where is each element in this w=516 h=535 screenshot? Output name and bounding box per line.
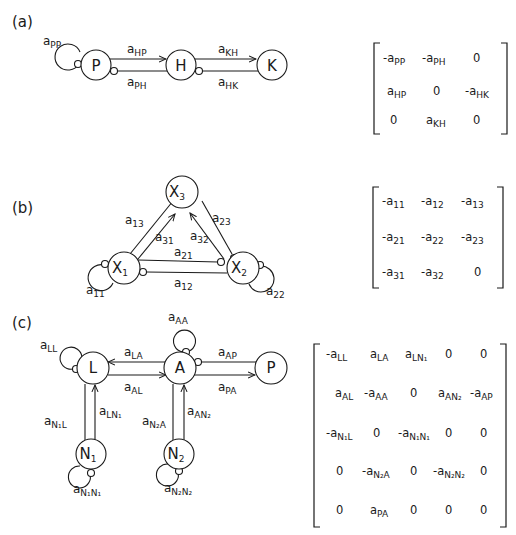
edge-label-ahk: aHK xyxy=(218,75,239,91)
negative-effect-marker xyxy=(140,269,147,276)
food-web-figure: (a) aPP aHP aPH aKH aHK P H K -aPP -aPH … xyxy=(0,0,516,535)
edge-x3-to-x2 xyxy=(202,201,232,254)
matrix-cell: -a13 xyxy=(461,194,484,210)
edge-label-aal: aAL xyxy=(124,380,143,396)
edge-label-aap: aAP xyxy=(218,345,238,361)
panel-b-label: (b) xyxy=(12,199,33,217)
matrix-cell: -aAP xyxy=(470,386,493,402)
community-matrix-c: -aLL aLA aLN₁ 0 0 aAL -aAA 0 aAN₂ -aAP -… xyxy=(314,344,506,527)
edge-label-ahp: aHP xyxy=(127,42,147,58)
matrix-cell: -aPP xyxy=(383,51,406,67)
matrix-right-bracket xyxy=(497,187,503,288)
node-k-label: K xyxy=(267,57,278,75)
edge-label-a11: a11 xyxy=(86,283,105,299)
node-a-label: A xyxy=(175,359,186,377)
matrix-cell: 0 xyxy=(410,386,417,400)
edge-label-all: aLL xyxy=(40,338,57,354)
matrix-cell: aLA xyxy=(370,347,389,363)
matrix-cell: -a22 xyxy=(421,230,444,246)
matrix-cell: 0 xyxy=(480,347,487,361)
matrix-cell: 0 xyxy=(433,84,440,98)
matrix-cell: 0 xyxy=(373,426,380,440)
negative-effect-marker xyxy=(88,470,95,477)
matrix-cell: 0 xyxy=(480,464,487,478)
edge-label-ala: aLA xyxy=(124,345,144,361)
edge-label-aan2: aAN₂ xyxy=(187,404,211,420)
edge-label-akh: aKH xyxy=(218,42,238,58)
negative-effect-marker xyxy=(102,261,109,268)
matrix-cell: aAN₂ xyxy=(438,386,462,402)
matrix-cell: 0 xyxy=(480,426,487,440)
matrix-cell: -aLL xyxy=(326,347,347,363)
matrix-cell: aHP xyxy=(387,84,407,100)
matrix-cell: 0 xyxy=(480,503,487,517)
node-p-label: P xyxy=(266,359,275,377)
matrix-cell: aAL xyxy=(335,386,353,402)
edge-label-aln1: aLN₁ xyxy=(99,404,122,420)
edge-label-an1l: aN₁L xyxy=(44,414,67,430)
matrix-cell: -aPH xyxy=(422,51,445,67)
node-h-label: H xyxy=(175,57,186,75)
matrix-cell: 0 xyxy=(474,265,481,279)
edge-label-a22: a22 xyxy=(266,284,285,300)
matrix-right-bracket xyxy=(500,344,506,527)
matrix-left-bracket xyxy=(374,43,380,134)
panel-c: (c) aLL aLA aAL aAA aAP aPA aN₁L aLN₁ aN… xyxy=(12,310,506,527)
matrix-cell: 0 xyxy=(473,113,480,127)
matrix-cell: 0 xyxy=(336,503,343,517)
matrix-cell: -aAA xyxy=(364,386,389,402)
edge-label-a13: a13 xyxy=(125,213,144,229)
node-l-label: L xyxy=(89,359,98,377)
matrix-right-bracket xyxy=(501,43,507,134)
matrix-cell: 0 xyxy=(445,426,452,440)
community-matrix-b: -a11 -a12 -a13 -a21 -a22 -a23 -a31 -a32 … xyxy=(373,187,503,288)
edge-label-an2a: aN₂A xyxy=(142,414,167,430)
edge-label-aaa: aAA xyxy=(168,310,189,326)
matrix-cell: -aHK xyxy=(465,84,490,100)
node-p-label: P xyxy=(91,57,100,75)
edge-label-app: aPP xyxy=(43,34,62,50)
panel-b: (b) a13 a31 a23 a32 a21 a12 a11 a22 X3 X… xyxy=(12,176,503,300)
matrix-cell: -a11 xyxy=(382,194,405,210)
matrix-cell: 0 xyxy=(336,464,343,478)
matrix-cell: -aN₂A xyxy=(362,464,391,480)
negative-effect-marker xyxy=(75,61,82,68)
matrix-cell: 0 xyxy=(410,503,417,517)
matrix-cell: -aN₁N₁ xyxy=(398,426,430,442)
matrix-cell: 0 xyxy=(445,503,452,517)
panel-a-label: (a) xyxy=(12,13,33,31)
edge-label-a12: a12 xyxy=(174,276,193,292)
negative-effect-marker xyxy=(111,68,118,75)
matrix-cell: -a12 xyxy=(421,194,444,210)
matrix-cell: aPA xyxy=(370,503,389,519)
panel-c-label: (c) xyxy=(12,314,32,332)
community-matrix-a: -aPP -aPH 0 aHP 0 -aHK 0 aKH 0 xyxy=(374,43,507,134)
edge-label-aph: aPH xyxy=(127,75,147,91)
negative-effect-marker xyxy=(218,259,225,266)
edge-label-apa: aPA xyxy=(218,380,237,396)
matrix-cell: 0 xyxy=(410,464,417,478)
edge-x2-to-x1 xyxy=(146,272,227,273)
edge-label-a21: a21 xyxy=(174,245,193,261)
negative-effect-marker xyxy=(196,68,203,75)
matrix-left-bracket xyxy=(373,187,379,288)
panel-a: (a) aPP aHP aPH aKH aHK P H K -aPP -aPH … xyxy=(12,13,507,134)
matrix-cell: -a32 xyxy=(421,265,444,281)
edge-label-a31: a31 xyxy=(155,230,174,246)
matrix-cell: -a31 xyxy=(382,265,405,281)
matrix-cell: 0 xyxy=(445,347,452,361)
matrix-cell: aKH xyxy=(426,113,446,129)
matrix-cell: -a21 xyxy=(382,230,405,246)
matrix-left-bracket xyxy=(314,344,320,527)
matrix-cell: 0 xyxy=(390,113,397,127)
matrix-cell: aLN₁ xyxy=(405,347,428,363)
matrix-cell: -aN₁L xyxy=(326,426,353,442)
matrix-cell: -aN₂N₂ xyxy=(433,464,465,480)
edge-x1-to-x2 xyxy=(138,260,218,262)
edge-label-an2n2: aN₂N₂ xyxy=(164,481,192,497)
edge-label-a32: a32 xyxy=(190,229,209,245)
edge-label-a23: a23 xyxy=(212,211,231,227)
matrix-cell: 0 xyxy=(473,51,480,65)
matrix-cell: -a23 xyxy=(461,230,484,246)
